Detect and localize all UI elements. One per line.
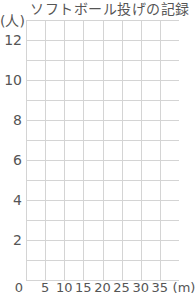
grid-lines — [26, 20, 179, 281]
x-tick-label: 0 — [15, 281, 23, 295]
x-axis-unit-label: (m) — [173, 281, 196, 295]
y-axis-unit-label: (人) — [0, 13, 25, 29]
x-tick-label: 15 — [75, 281, 92, 295]
chart-title: ソフトボール投げの記録 — [30, 0, 192, 18]
y-tick-label: 6 — [0, 153, 22, 167]
x-tick-label: 10 — [56, 281, 73, 295]
y-tick-label: 8 — [0, 113, 22, 127]
x-tick-label: 20 — [94, 281, 111, 295]
y-tick-label: 10 — [0, 73, 22, 87]
x-tick-label: 35 — [152, 281, 169, 295]
x-tick-label: 25 — [113, 281, 130, 295]
x-tick-label: 30 — [132, 281, 149, 295]
y-tick-label: 4 — [0, 193, 22, 207]
y-tick-label: 2 — [0, 233, 22, 247]
x-tick-label: 5 — [41, 281, 49, 295]
histogram-grid — [26, 20, 179, 280]
y-tick-label: 12 — [0, 33, 22, 47]
